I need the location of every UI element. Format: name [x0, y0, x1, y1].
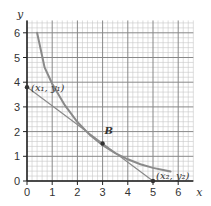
point-b	[100, 141, 104, 145]
point-x1-y1-label: (x₁, y₁)	[31, 82, 65, 93]
x-tick-label: 0	[24, 186, 30, 198]
y-tick-label: 2	[14, 126, 20, 138]
point-x1-y1	[25, 85, 29, 89]
point-x2-y2	[151, 179, 155, 183]
x-tick-label: 5	[150, 186, 156, 198]
y-axis-label: y	[16, 8, 24, 21]
x-tick-label: 3	[100, 186, 106, 198]
chart: 01234560123456 (x₁, y₁)B(x₂, y₂) x y	[0, 0, 211, 206]
y-tick-label: 5	[14, 52, 20, 64]
y-tick-label: 3	[14, 101, 20, 113]
x-tick-label: 2	[74, 186, 80, 198]
x-tick-label: 6	[175, 186, 181, 198]
tangent-line	[27, 87, 153, 181]
x-tick-label: 4	[125, 186, 131, 198]
y-tick-label: 4	[14, 76, 20, 88]
x-axis-label: x	[196, 186, 203, 199]
y-tick-label: 6	[14, 27, 20, 39]
y-tick-label: 1	[14, 150, 20, 162]
point-x2-y2-label: (x₂, y₂)	[156, 170, 190, 181]
point-b-label: B	[104, 125, 113, 136]
x-tick-label: 1	[49, 186, 55, 198]
y-tick-label: 0	[14, 175, 20, 187]
